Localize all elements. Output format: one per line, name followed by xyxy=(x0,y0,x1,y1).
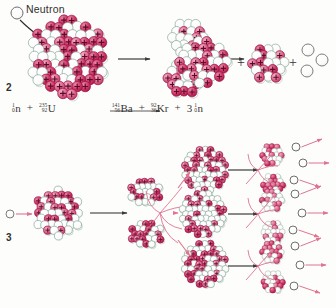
isotope-numbers: 9236 xyxy=(151,103,157,114)
gen1-fragment-bottom xyxy=(128,220,164,249)
neutron-sphere xyxy=(33,75,44,86)
gen3-free-neutron-5 xyxy=(298,209,306,217)
plus-operator: + xyxy=(21,101,39,113)
uranium-235-nucleus xyxy=(28,15,108,101)
gen2-nucleus-3 xyxy=(181,240,229,288)
diagram-canvas: + + xyxy=(0,0,336,308)
gen3-free-neutron-6 xyxy=(289,226,297,234)
isotope-numbers: 14156 xyxy=(112,103,120,114)
atomic-number: 56 xyxy=(112,108,120,113)
isotope-coefficient: 3 xyxy=(187,102,193,114)
isotope-term: 14156Ba xyxy=(112,101,133,114)
gen2-neutron-track-1-4 xyxy=(248,154,258,170)
uranium-235-nucleus-cluster xyxy=(28,15,108,101)
free-neutron-1 xyxy=(302,44,314,56)
gen2-fission-arrows xyxy=(228,170,258,266)
gen2-neutron-track-3-5 xyxy=(246,266,258,280)
atomic-number: 36 xyxy=(151,108,157,113)
gen3-free-neutron-9 xyxy=(290,282,298,290)
free-neutrons-group xyxy=(301,44,328,77)
gen1-uranium-nucleus xyxy=(34,186,82,240)
panel-2-number: 2 xyxy=(6,82,12,93)
free-neutron-3 xyxy=(301,65,313,77)
plus-operator: + xyxy=(133,101,151,113)
fission-diagram-figure: + + Neutron 2 3 10n+23592U141 xyxy=(0,0,336,308)
neutron-sphere xyxy=(135,199,142,206)
element-symbol: Ba xyxy=(120,102,132,114)
neutron-sphere xyxy=(148,241,155,248)
fission-products-group: + + xyxy=(175,36,328,87)
element-symbol: n xyxy=(197,102,203,114)
neutron-sphere xyxy=(136,240,143,247)
gen3-neutron-arrow-7 xyxy=(301,238,322,246)
isotope-term: 10n xyxy=(12,101,21,114)
gen2-nucleus-2 xyxy=(179,190,227,238)
neutron-sphere xyxy=(54,232,62,240)
isotope-term: 310n xyxy=(187,101,203,114)
gen3-free-neutron-3 xyxy=(290,176,298,184)
krypton-92-fragment xyxy=(248,44,290,84)
gen3-free-neutron-7 xyxy=(291,242,299,250)
panel-3-number: 3 xyxy=(6,232,12,243)
gen2-neutron-track-3-4 xyxy=(248,250,258,266)
gen3-free-neutron-4 xyxy=(291,190,299,198)
neutron-sphere xyxy=(64,226,72,234)
gen3-neutron-arrow-1 xyxy=(302,139,323,147)
gen1-fragment-bottom-cluster xyxy=(128,220,164,249)
gen3-neutron-arrow-9 xyxy=(300,286,321,293)
element-symbol: Kr xyxy=(157,102,169,114)
gen3-free-neutron-2 xyxy=(299,159,307,167)
gen2-neutron-track-2-4 xyxy=(248,198,258,214)
proton-sphere xyxy=(274,258,280,264)
chain-incoming-neutron xyxy=(6,210,14,218)
gen3-neutron-arrow-4 xyxy=(301,186,322,194)
gen3-neutron-arrow-6 xyxy=(299,230,320,237)
gen1-nucleus-cluster xyxy=(34,186,82,240)
free-neutron-2 xyxy=(316,54,328,66)
gen1-fragment-top-cluster xyxy=(128,178,164,206)
gen2-neutron-track-2-5 xyxy=(246,214,258,228)
gen2-fragment-top-1 xyxy=(260,144,285,167)
element-symbol: U xyxy=(48,102,56,114)
neutron-sphere xyxy=(73,221,81,229)
element-symbol: n xyxy=(15,102,21,114)
gen3-free-neutron-1 xyxy=(292,143,300,151)
neutron-sphere xyxy=(128,193,135,200)
neutron-sphere xyxy=(195,78,205,88)
gen2-fragment-bottom-3 xyxy=(261,271,286,294)
panel-3-group xyxy=(6,139,329,294)
neutron-sphere xyxy=(207,281,214,288)
gen3-neutron-arrow-3 xyxy=(300,180,321,187)
proton-sphere xyxy=(270,287,276,293)
gen1-fragment-top xyxy=(128,178,164,206)
isotope-term: 23592U xyxy=(39,101,56,114)
gen2-neutron-track-1-5 xyxy=(246,170,258,184)
gen3-free-neutron-8 xyxy=(296,261,304,269)
isotope-term: 9236Kr xyxy=(151,101,169,114)
neutron-legend-icon xyxy=(11,7,23,19)
gen2-nucleus-1 xyxy=(181,146,229,194)
neutron-label: Neutron xyxy=(26,3,65,15)
plus-sign-products-1: + xyxy=(237,55,245,70)
fission-equation: 10n+23592U14156Ba+9236Kr+310n xyxy=(12,100,203,114)
krypton-fragment-cluster xyxy=(248,44,290,84)
proton-sphere xyxy=(274,206,280,212)
gen2-nuclei-group xyxy=(179,146,229,288)
isotope-numbers: 23592 xyxy=(39,103,47,114)
gen3-free-neutrons-group xyxy=(289,139,329,293)
plus-sign-products-2: + xyxy=(289,55,297,70)
atomic-number: 92 xyxy=(39,108,47,113)
plus-operator: + xyxy=(168,101,186,113)
